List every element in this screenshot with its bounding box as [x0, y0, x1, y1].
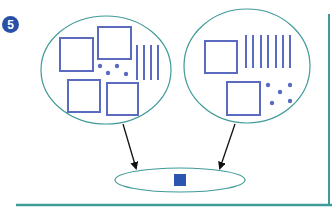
hundred-square-icon [60, 38, 93, 71]
one-dot-icon [106, 71, 110, 75]
right-ones-dots [266, 83, 292, 105]
hundred-square-icon [68, 80, 100, 112]
hundred-square-icon [98, 27, 131, 59]
result-group [115, 168, 245, 192]
right-tens-lines [246, 35, 290, 68]
diagram-canvas: 5 [0, 0, 332, 208]
hundred-square-icon [227, 82, 260, 115]
right-arrow [220, 124, 235, 168]
one-dot-icon [98, 64, 102, 68]
diagram-svg [0, 0, 332, 208]
one-dot-icon [115, 64, 119, 68]
hundred-square-icon [107, 83, 138, 115]
left-tens-lines [137, 45, 158, 80]
one-dot-icon [266, 83, 270, 87]
unit-square-icon [174, 174, 186, 186]
left-group [41, 16, 171, 124]
right-group [184, 9, 310, 123]
one-dot-icon [288, 99, 292, 103]
left-ones-dots [98, 64, 128, 76]
one-dot-icon [288, 83, 292, 87]
one-dot-icon [270, 101, 274, 105]
left-arrow [123, 124, 136, 168]
left-hundreds-squares [60, 27, 138, 115]
one-dot-icon [124, 72, 128, 76]
one-dot-icon [278, 90, 282, 94]
hundred-square-icon [205, 41, 237, 73]
right-hundreds-squares [205, 41, 260, 115]
